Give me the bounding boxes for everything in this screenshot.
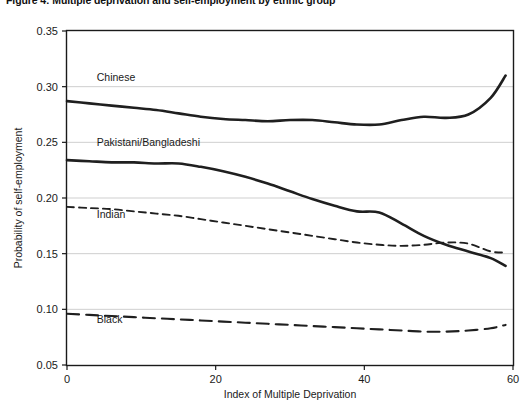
- series-group: [67, 76, 506, 332]
- series-line-pakistani-bangladeshi: [67, 160, 506, 266]
- x-tick-label: 0: [64, 373, 70, 385]
- series-label-indian: Indian: [97, 208, 126, 220]
- series-label-pakistani-bangladeshi: Pakistani/Bangladeshi: [97, 136, 200, 148]
- x-axis-title: Index of Multiple Deprivation: [224, 388, 357, 400]
- y-tick-label: 0.15: [37, 248, 58, 260]
- series-label-black: Black: [97, 313, 123, 325]
- series-label-chinese: Chinese: [97, 71, 136, 83]
- y-axis-ticks: 0.050.100.150.200.250.300.35: [37, 25, 67, 371]
- y-tick-label: 0.05: [37, 359, 58, 371]
- y-tick-label: 0.35: [37, 25, 58, 37]
- y-tick-label: 0.10: [37, 303, 58, 315]
- x-axis-ticks: 0204060: [64, 365, 519, 385]
- x-tick-label: 20: [210, 373, 222, 385]
- chart-canvas: 0.050.100.150.200.250.300.35 0204060 Ind…: [0, 0, 531, 408]
- y-axis-title: Probability of self-employment: [12, 128, 24, 269]
- x-tick-label: 40: [358, 373, 370, 385]
- series-line-indian: [67, 207, 506, 253]
- series-line-black: [67, 314, 506, 332]
- y-tick-label: 0.30: [37, 81, 58, 93]
- y-tick-label: 0.25: [37, 136, 58, 148]
- y-tick-label: 0.20: [37, 192, 58, 204]
- x-tick-label: 60: [507, 373, 519, 385]
- chart-svg: 0.050.100.150.200.250.300.35 0204060 Ind…: [0, 0, 531, 408]
